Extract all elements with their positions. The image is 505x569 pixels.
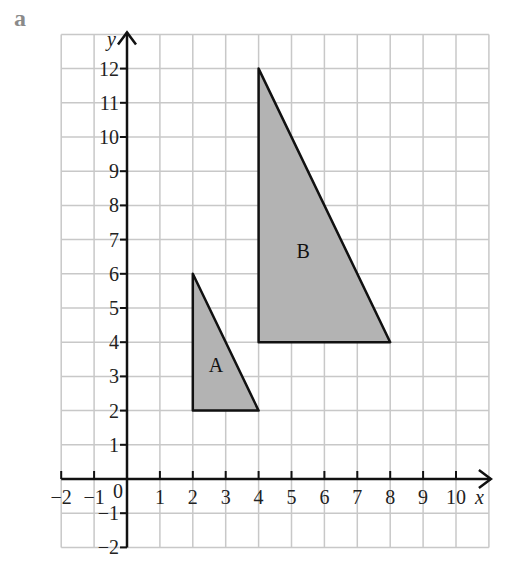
x-tick-label: 5	[287, 486, 297, 508]
y-tick-label: 9	[109, 160, 119, 182]
y-tick-label: 6	[109, 263, 119, 285]
x-tick-label: 1	[155, 486, 165, 508]
y-tick-label: 5	[109, 297, 119, 319]
x-tick-label: 3	[221, 486, 231, 508]
y-tick-label: 12	[99, 58, 119, 80]
y-tick-label: 7	[109, 229, 119, 251]
x-tick-label: −2	[51, 486, 72, 508]
x-tick-label: 2	[188, 486, 198, 508]
y-tick-label: 1	[109, 434, 119, 456]
y-tick-label: 8	[109, 194, 119, 216]
coordinate-grid: AB−2−112345678910−2−11234567891011120xy	[0, 0, 505, 569]
x-tick-label: 8	[385, 486, 395, 508]
y-tick-label: −1	[98, 502, 119, 524]
y-axis-label: y	[105, 28, 116, 51]
x-axis-label: x	[474, 486, 484, 508]
shape-label-a: A	[209, 354, 224, 376]
x-tick-label: 6	[319, 486, 329, 508]
y-tick-label: 3	[109, 365, 119, 387]
x-tick-label: 9	[418, 486, 428, 508]
y-tick-label: 2	[109, 400, 119, 422]
y-tick-label: −2	[98, 536, 119, 558]
x-tick-label: 10	[446, 486, 466, 508]
y-tick-label: 10	[99, 126, 119, 148]
y-tick-label: 4	[109, 331, 119, 353]
x-tick-label: 7	[352, 486, 362, 508]
x-tick-label: 4	[254, 486, 264, 508]
shape-label-b: B	[296, 240, 309, 262]
origin-label: 0	[113, 480, 123, 502]
y-tick-label: 11	[100, 92, 119, 114]
